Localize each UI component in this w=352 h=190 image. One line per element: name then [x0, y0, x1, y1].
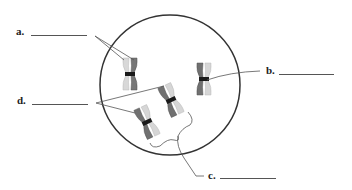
chromosome-a [123, 58, 137, 90]
answer-blank-d[interactable] [32, 104, 88, 105]
leader-a [95, 36, 134, 60]
answer-blank-a[interactable] [31, 35, 87, 36]
label-d: d. [17, 95, 26, 106]
label-b: b. [266, 65, 275, 76]
chromosome-d2 [134, 104, 161, 139]
cell-diagram [0, 0, 352, 190]
answer-blank-b[interactable] [279, 74, 334, 75]
label-a: a. [16, 26, 24, 37]
leader-b [207, 71, 260, 80]
label-c: c. [208, 170, 216, 181]
centromere [199, 77, 209, 81]
leader-d [96, 86, 164, 113]
chromosome-d1 [158, 82, 185, 117]
answer-blank-c[interactable] [220, 178, 276, 179]
centromere [125, 72, 135, 76]
leader-c [150, 112, 204, 176]
